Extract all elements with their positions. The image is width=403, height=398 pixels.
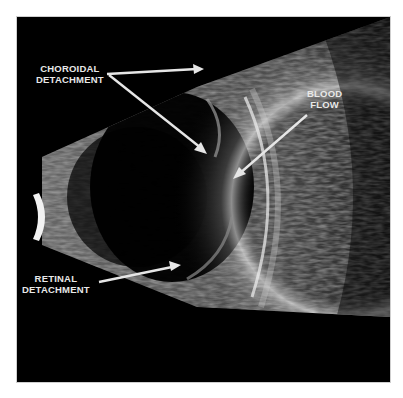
arrowhead-icon: [193, 64, 204, 74]
arrow-choroidal-upper: [107, 69, 197, 74]
label-retinal-detachment: RETINAL DETACHMENT: [22, 273, 90, 295]
label-choroidal-detachment: CHOROIDAL DETACHMENT: [36, 63, 104, 85]
ultrasound-frame: CHOROIDAL DETACHMENT BLOOD FLOW RETINAL …: [17, 17, 390, 382]
label-blood-flow: BLOOD FLOW: [307, 88, 342, 110]
